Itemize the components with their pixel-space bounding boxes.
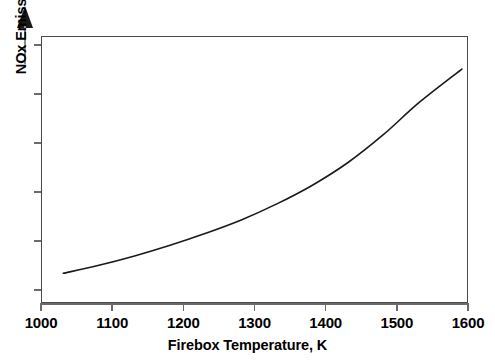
x-axis-tick: [111, 303, 113, 311]
x-axis-tick-label: 1200: [148, 314, 218, 331]
chart-figure: NOx Emissions, Increasing 10001100120013…: [0, 0, 495, 363]
y-axis-tick: [34, 142, 41, 144]
x-axis-tick-label: 1000: [6, 314, 76, 331]
y-axis-tick: [34, 93, 41, 95]
y-axis-tick: [34, 191, 41, 193]
y-axis-title: NOx Emissions, Increasing: [10, 0, 32, 88]
x-axis-tick: [396, 303, 398, 311]
x-axis-tick: [325, 303, 327, 311]
x-axis-tick-label: 1500: [362, 314, 432, 331]
x-axis-tick-label: 1400: [291, 314, 361, 331]
x-axis-tick: [40, 303, 42, 311]
x-axis-tick-label: 1600: [433, 314, 495, 331]
x-axis-tick: [183, 303, 185, 311]
x-axis-tick-label: 1100: [77, 314, 147, 331]
x-axis-tick-label: 1300: [220, 314, 290, 331]
y-axis-tick: [34, 44, 41, 46]
x-axis-title: Firebox Temperature, K: [0, 337, 495, 353]
series-nox-curve: [63, 69, 462, 273]
plot-area: [41, 36, 468, 303]
x-axis-tick: [254, 303, 256, 311]
data-curve-svg: [42, 37, 469, 304]
y-axis-tick: [34, 240, 41, 242]
x-axis-tick: [467, 303, 469, 311]
y-axis-tick: [34, 289, 41, 291]
